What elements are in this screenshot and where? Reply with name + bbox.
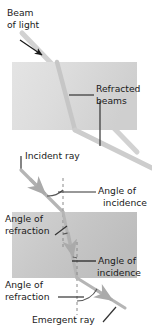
angle-of-refraction-top-label-line1: Angle of xyxy=(5,213,44,224)
angle-of-refraction-top-label-line2: refraction xyxy=(5,225,50,236)
angle-of-incidence-bottom-label-line2: incidence xyxy=(97,267,141,278)
angle-of-incidence-bottom-label-line1: Angle of xyxy=(98,255,137,266)
refracted-beams-label-line1: Refracted xyxy=(96,83,140,94)
beam-of-light-label-line2: of light xyxy=(7,19,40,30)
angle-of-refraction-bottom-label-line1: Angle of xyxy=(5,279,44,290)
angle-of-refraction-bottom-label-line2: refraction xyxy=(5,291,50,302)
emergent-ray-label: Emergent ray xyxy=(32,314,95,325)
refraction-figure: Beam of light Refracted beams Incident r… xyxy=(0,0,152,328)
beam-of-light-label-line1: Beam xyxy=(7,7,34,18)
angle-of-incidence-top-label-line2: incidence xyxy=(103,197,147,208)
refracted-beams-label-line2: beams xyxy=(96,95,127,106)
angle-of-incidence-top-label-line1: Angle of xyxy=(98,185,137,196)
incident-ray-label: Incident ray xyxy=(25,150,80,161)
